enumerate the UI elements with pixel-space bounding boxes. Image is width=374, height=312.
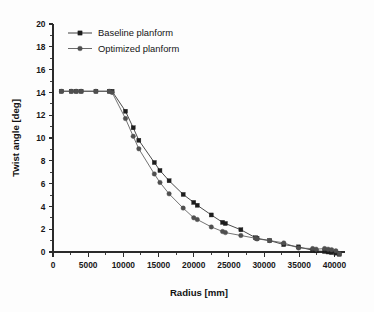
data-point-circle	[267, 238, 272, 243]
data-point-square	[239, 228, 243, 232]
x-tick-label: 25000	[217, 260, 241, 270]
y-tick-label: 20	[36, 19, 46, 29]
series-line	[61, 91, 339, 254]
legend-marker-circle	[78, 46, 83, 51]
data-point-circle	[329, 247, 334, 252]
data-point-square	[158, 168, 162, 172]
x-tick-label: 15000	[147, 260, 171, 270]
data-point-square	[152, 161, 156, 165]
data-point-circle	[131, 134, 136, 139]
data-point-circle	[296, 246, 301, 251]
data-point-circle	[152, 172, 157, 177]
data-point-circle	[314, 247, 319, 252]
data-point-circle	[69, 89, 74, 94]
data-point-square	[195, 203, 199, 207]
data-point-circle	[181, 206, 186, 211]
data-point-square	[167, 179, 171, 183]
x-axis-ticks	[53, 252, 334, 257]
data-point-circle	[167, 192, 172, 197]
x-tick-label: 10000	[112, 260, 136, 270]
legend-marker-square	[78, 31, 82, 35]
data-point-circle	[282, 241, 287, 246]
data-point-circle	[123, 116, 128, 121]
data-point-square	[123, 109, 127, 113]
y-tick-label: 18	[36, 42, 46, 52]
y-axis-title: Twist angle [deg]	[10, 99, 21, 177]
data-point-square	[131, 126, 135, 130]
x-tick-label: 30000	[252, 260, 276, 270]
series-optimized	[59, 89, 341, 256]
y-axis-tick-labels: 02468101214161820	[36, 19, 46, 257]
data-point-square	[181, 192, 185, 196]
data-point-circle	[195, 217, 200, 222]
data-point-circle	[337, 251, 342, 256]
data-point-circle	[255, 237, 260, 242]
legend-entry[interactable]: Optimized planform	[68, 43, 179, 54]
data-point-circle	[137, 147, 142, 152]
y-tick-label: 4	[41, 202, 46, 212]
x-tick-label: 35000	[288, 260, 312, 270]
data-point-circle	[239, 233, 244, 238]
series-baseline	[59, 89, 341, 256]
y-tick-label: 0	[41, 247, 46, 257]
chart-figure: 02468101214161820 0500010000150002000025…	[0, 0, 374, 312]
legend-label: Baseline planform	[98, 27, 173, 38]
chart-legend: Baseline planformOptimized planform	[68, 27, 179, 54]
x-tick-label: 5000	[79, 260, 98, 270]
data-point-circle	[110, 90, 115, 95]
data-point-square	[209, 213, 213, 217]
x-axis-title: Radius [mm]	[170, 287, 228, 298]
y-tick-label: 12	[36, 110, 46, 120]
data-point-square	[137, 138, 141, 142]
data-point-circle	[94, 89, 99, 94]
axes-frame	[53, 24, 345, 252]
y-tick-label: 10	[36, 133, 46, 143]
data-point-circle	[79, 89, 84, 94]
data-series-layer	[59, 89, 341, 256]
y-tick-label: 16	[36, 65, 46, 75]
twist-angle-vs-radius-chart: 02468101214161820 0500010000150002000025…	[0, 0, 374, 312]
data-point-circle	[223, 230, 228, 235]
legend-entry[interactable]: Baseline planform	[68, 27, 173, 38]
data-point-square	[223, 222, 227, 226]
data-point-circle	[158, 180, 163, 185]
x-tick-label: 20000	[182, 260, 206, 270]
y-tick-label: 14	[36, 88, 46, 98]
y-tick-label: 8	[41, 156, 46, 166]
series-line	[61, 91, 339, 253]
x-tick-label: 0	[51, 260, 56, 270]
y-axis-ticks	[49, 24, 54, 252]
legend-label: Optimized planform	[98, 43, 179, 54]
data-point-circle	[74, 89, 79, 94]
x-tick-label: 40000	[323, 260, 347, 270]
y-tick-label: 2	[41, 224, 46, 234]
data-point-circle	[59, 89, 64, 94]
x-axis-tick-labels: 0500010000150002000025000300003500040000	[51, 260, 347, 270]
y-tick-label: 6	[41, 179, 46, 189]
data-point-circle	[209, 225, 214, 230]
